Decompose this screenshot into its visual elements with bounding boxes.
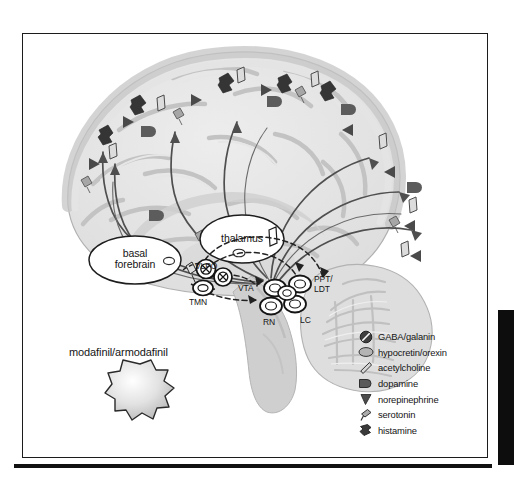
legend-item-serotonin: serotonin [356,407,481,423]
region-label-thalamus: thalamus [212,233,272,244]
drug-label-modafinil: modafinil/armodafinil [69,347,168,359]
legend-label-norepinephrine: norepinephrine [378,394,438,405]
legend-item-dopamine: dopamine [356,376,481,392]
basal-forebrain-line2: forebrain [103,259,167,270]
legend-label-hypocretin: hypocretin/orexin [378,347,447,358]
legend-item-norepinephrine: norepinephrine [356,391,481,407]
nucleus-extra [278,286,296,300]
nucleus-label-vlpo: VLPO [195,262,217,271]
legend-item-acetylcholine: acetylcholine [356,360,481,376]
dopamine-capsule-icon [356,377,375,391]
circle-slash-icon [356,330,375,344]
figure-frame: basal forebrain thalamus VLPO TMN VTA RN… [22,33,488,458]
figure-page: basal forebrain thalamus VLPO TMN VTA RN… [0,0,514,484]
legend: GABA/galanin hypocretin/orexin acetylcho… [356,329,481,438]
legend-label-histamine: histamine [378,425,417,436]
histamine-burst-icon [356,423,375,437]
legend-label-serotonin: serotonin [378,409,415,420]
legend-item-gaba: GABA/galanin [356,329,481,345]
nucleus-label-ppt-ldt: PPT/ LDT [314,275,333,295]
nucleus-tmn [193,281,213,296]
region-label-basal-forebrain: basal forebrain [103,248,167,271]
nucleus-label-vta: VTA [238,284,254,293]
ellipse-icon [356,345,375,359]
bottom-horizontal-rule [14,464,492,468]
diamond-icon [356,361,375,375]
legend-item-hypocretin: hypocretin/orexin [356,345,481,361]
nucleus-label-rn: RN [263,318,275,327]
modafinil-starburst-icon [105,360,174,420]
nucleus-label-lc: LC [300,316,311,325]
legend-label-acetylcholine: acetylcholine [378,362,430,373]
nucleus-label-tmn: TMN [189,298,207,307]
nucleus-rn [260,298,282,315]
legend-label-dopamine: dopamine [378,378,418,389]
triangle-icon [356,392,375,406]
page-edge-bar [498,310,514,465]
legend-item-histamine: histamine [356,423,481,439]
ppt-label-line2: LDT [314,285,333,295]
serotonin-flag-icon [356,408,375,422]
legend-label-gaba: GABA/galanin [378,331,435,342]
